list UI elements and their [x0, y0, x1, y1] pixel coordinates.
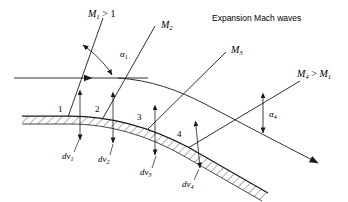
mach-label-m4-sub2: 1	[328, 73, 331, 80]
deflection-label-3-sub: 3	[149, 172, 152, 178]
angle-label-alpha1: α1	[120, 50, 128, 59]
deflection-label-2: dν2	[98, 155, 110, 164]
figure-canvas: Expansion Mach waves M1 > 1 M2 M3 M4 > M…	[0, 0, 348, 202]
mach-label-m4-rel: >	[309, 68, 320, 79]
deflection-label-3: dν3	[140, 168, 152, 177]
expansion-fan-drawing	[0, 0, 348, 202]
figure-title: Expansion Mach waves	[212, 14, 301, 23]
angle-label-alpha4: α4	[269, 110, 277, 119]
wall-point-3: 3	[137, 113, 142, 122]
mach-label-m3: M3	[231, 45, 243, 55]
outgoing-flow-arrow	[262, 134, 318, 163]
deflection-label-2-base: dν	[98, 154, 107, 164]
deflection-label-4-base: dν	[182, 179, 191, 189]
deflection-label-4-sub: 4	[191, 184, 194, 190]
mach-label-m3-sub: 3	[239, 49, 242, 56]
deflection-label-1: dν1	[62, 152, 74, 161]
deflected-streamline	[118, 78, 262, 134]
mach-label-m1-sub: 1	[96, 13, 99, 20]
mach-label-m2-sub: 2	[169, 24, 172, 31]
mach-wave-m2-line	[103, 26, 155, 118]
mach-label-m1: M1 > 1	[88, 9, 115, 19]
mach-wave-m4-line	[188, 81, 300, 148]
mach-label-m4-sub: 4	[305, 73, 308, 80]
angle-label-alpha4-sub: 4	[274, 114, 277, 120]
angle-label-alpha1-sub: 1	[125, 54, 128, 60]
deflection-label-1-base: dν	[62, 151, 71, 161]
deflection-label-1-sub: 1	[71, 156, 74, 162]
wall-point-2: 2	[95, 105, 100, 114]
mach-wave-m3-line	[148, 52, 226, 129]
wall-point-1: 1	[58, 105, 63, 114]
mach-label-m1-rel: > 1	[100, 8, 116, 19]
deflection-label-2-sub: 2	[107, 159, 110, 165]
mach-label-m2: M2	[161, 20, 173, 30]
wall-point-4: 4	[177, 130, 182, 139]
mach-label-m4: M4 > M1	[297, 69, 331, 79]
deflection-label-4: dν4	[182, 180, 194, 189]
mach-label-m4-base2: M	[319, 68, 327, 79]
mach-wave-m1-line	[68, 18, 103, 117]
deflection-label-3-base: dν	[140, 167, 149, 177]
